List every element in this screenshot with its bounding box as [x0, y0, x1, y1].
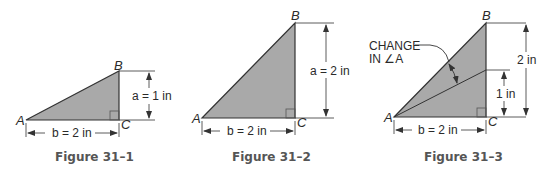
side-a-label: a = 1 in [132, 89, 172, 103]
annotation-line-1: CHANGE [369, 39, 420, 53]
triangle-figures: a = 1 in b = 2 in A B C Figure 31–1 a = … [0, 0, 551, 180]
vertex-b-label: B [291, 8, 300, 23]
figure-31-1: a = 1 in b = 2 in A B C Figure 31–1 [15, 58, 172, 164]
figure-caption: Figure 31–3 [424, 150, 503, 164]
vertex-b-label: B [482, 8, 491, 23]
vertex-a-label: A [15, 113, 25, 128]
vertex-c-label: C [297, 115, 307, 130]
annotation-line-2: IN ∠A [369, 52, 403, 66]
height-full-label: 2 in [517, 53, 536, 67]
figure-caption: Figure 31–1 [55, 150, 134, 164]
triangle [202, 23, 295, 118]
figure-caption: Figure 31–2 [232, 150, 311, 164]
height-half-label: 1 in [496, 87, 515, 101]
side-b-label: b = 2 in [418, 123, 458, 137]
figure-31-2: a = 2 in b = 2 in A B C Figure 31–2 [191, 8, 350, 164]
triangle [26, 71, 119, 120]
vertex-a-label: A [383, 110, 393, 125]
triangle-large [394, 23, 486, 117]
side-b-label: b = 2 in [52, 126, 92, 140]
vertex-c-label: C [121, 117, 131, 132]
vertex-b-label: B [114, 58, 123, 73]
vertex-c-label: C [488, 114, 498, 129]
figure-31-3: 2 in 1 in b = 2 in CHANGE IN ∠A A B C Fi… [369, 8, 536, 164]
side-b-label: b = 2 in [227, 124, 267, 138]
side-a-label: a = 2 in [310, 64, 350, 78]
vertex-a-label: A [191, 111, 201, 126]
